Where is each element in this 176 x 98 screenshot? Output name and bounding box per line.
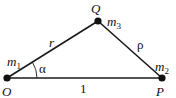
- angle-arc-alpha: [32, 62, 37, 78]
- angle-label-alpha: α: [39, 61, 46, 76]
- edge-label-rho: ρ: [137, 37, 144, 52]
- mass-label-m2: m2: [155, 59, 169, 76]
- vertex-O-dot: [3, 74, 10, 81]
- triangle-diagram: Q O P m3 m1 m2 r ρ 1 α: [0, 0, 176, 98]
- mass-label-m1: m1: [7, 54, 21, 71]
- label-O: O: [2, 84, 12, 98]
- vertex-Q-dot: [94, 17, 101, 24]
- edge-QP: [98, 21, 162, 78]
- label-P: P: [155, 84, 164, 98]
- edge-label-1: 1: [80, 81, 87, 96]
- mass-label-m3: m3: [107, 14, 121, 31]
- label-Q: Q: [91, 1, 101, 16]
